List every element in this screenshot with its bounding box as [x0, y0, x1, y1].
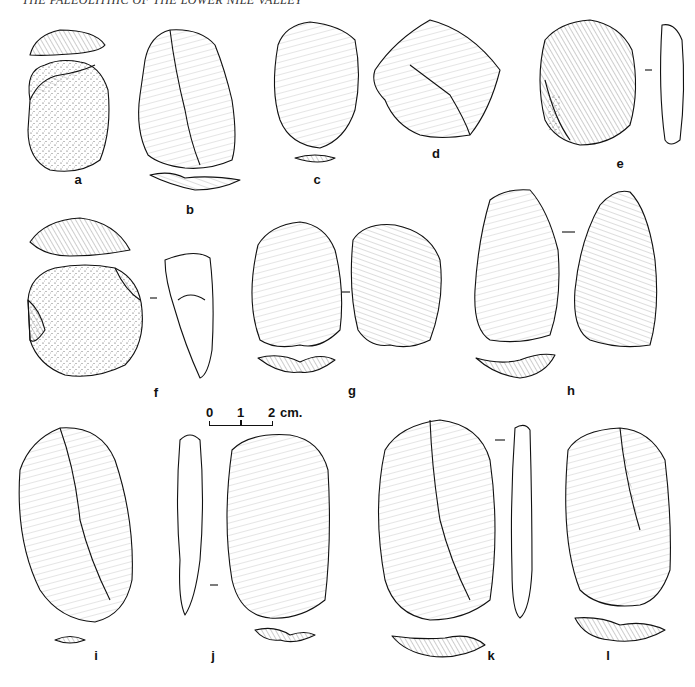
artifact-d	[374, 20, 500, 138]
label-b: b	[186, 202, 194, 217]
artifact-j	[178, 435, 330, 642]
artifact-a	[28, 30, 109, 171]
label-i: i	[94, 648, 98, 663]
artifact-f	[28, 218, 213, 378]
label-d: d	[432, 146, 440, 161]
scale-bar-midtick	[240, 420, 242, 426]
label-c: c	[313, 172, 320, 187]
artifact-g	[252, 222, 441, 373]
artifact-e	[540, 20, 684, 145]
scale-bar: 0 1 2 cm.	[206, 405, 316, 435]
scale-tick-2: 2	[268, 405, 275, 420]
scale-tick-1: 1	[237, 405, 244, 420]
label-f: f	[154, 385, 158, 400]
scale-tick-0: 0	[206, 405, 213, 420]
artifact-plate	[0, 0, 695, 687]
label-l: l	[606, 648, 610, 663]
artifact-b	[139, 30, 240, 190]
artifact-l	[566, 428, 671, 641]
artifact-c	[274, 22, 358, 162]
artifact-h	[475, 190, 657, 378]
label-k: k	[487, 648, 494, 663]
label-a: a	[74, 172, 81, 187]
label-e: e	[616, 156, 623, 171]
artifact-i	[19, 428, 132, 643]
artifact-k	[379, 420, 533, 657]
label-g: g	[348, 383, 356, 398]
label-h: h	[567, 383, 575, 398]
scale-unit: cm.	[280, 405, 302, 420]
label-j: j	[211, 648, 215, 663]
